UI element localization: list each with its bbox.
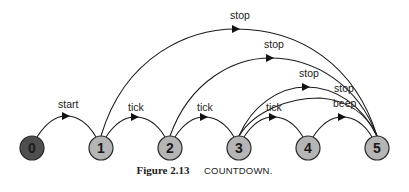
svg-text:0: 0 <box>28 140 36 156</box>
state-node-2: 2 <box>158 136 182 160</box>
edge-1-2-tick <box>106 113 165 137</box>
svg-text:2: 2 <box>166 140 174 156</box>
svg-text:1: 1 <box>97 140 105 156</box>
state-node-3: 3 <box>227 136 251 160</box>
figure-title: COUNTDOWN. <box>204 165 273 176</box>
state-node-1: 1 <box>89 136 113 160</box>
edge-label-stop-3: stop <box>299 67 319 79</box>
edge-3-4-tick <box>244 113 303 137</box>
edge-0-1-start <box>37 112 96 137</box>
edge-label-tick-1: tick <box>128 101 145 113</box>
edge-label-tick-3: tick <box>266 101 283 113</box>
edge-label-start: start <box>58 98 79 110</box>
state-node-4: 4 <box>296 136 320 160</box>
edge-label-stop-1: stop <box>230 9 250 21</box>
figure-caption: Figure 2.13 COUNTDOWN. <box>0 164 409 176</box>
edge-2-3-tick <box>175 113 234 137</box>
svg-text:4: 4 <box>304 140 312 156</box>
figure-number: Figure 2.13 <box>137 164 190 176</box>
svg-text:5: 5 <box>373 140 381 156</box>
svg-text:3: 3 <box>235 140 243 156</box>
edge-2-5-stop <box>170 54 377 136</box>
edge-label-stop-4: stop <box>334 82 354 94</box>
edge-label-tick-2: tick <box>197 101 214 113</box>
state-node-5: 5 <box>365 136 389 160</box>
edge-label-beep: beep <box>333 97 357 109</box>
edge-1-5-stop <box>101 25 377 136</box>
state-node-0: 0 <box>20 136 44 160</box>
edge-label-stop-2: stop <box>264 38 284 50</box>
